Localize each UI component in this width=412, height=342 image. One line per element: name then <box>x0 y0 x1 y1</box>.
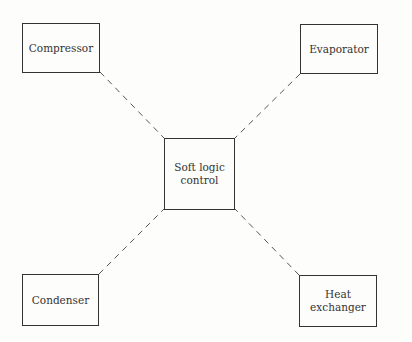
connector-heat-exchanger <box>235 209 299 275</box>
node-label: Condenser <box>32 294 89 307</box>
node-label: Evaporator <box>309 43 369 56</box>
node-compressor: Compressor <box>22 23 100 73</box>
node-condenser: Condenser <box>22 274 99 326</box>
node-label: Soft logic control <box>173 161 226 187</box>
node-heat-exchanger: Heat exchanger <box>299 275 377 327</box>
connector-compressor <box>100 72 164 138</box>
connector-condenser <box>99 209 164 274</box>
node-label: Compressor <box>29 42 93 55</box>
node-label: Heat exchanger <box>310 288 366 314</box>
node-soft-logic-control: Soft logic control <box>164 138 235 210</box>
connector-evaporator <box>235 74 300 138</box>
node-evaporator: Evaporator <box>300 24 378 74</box>
